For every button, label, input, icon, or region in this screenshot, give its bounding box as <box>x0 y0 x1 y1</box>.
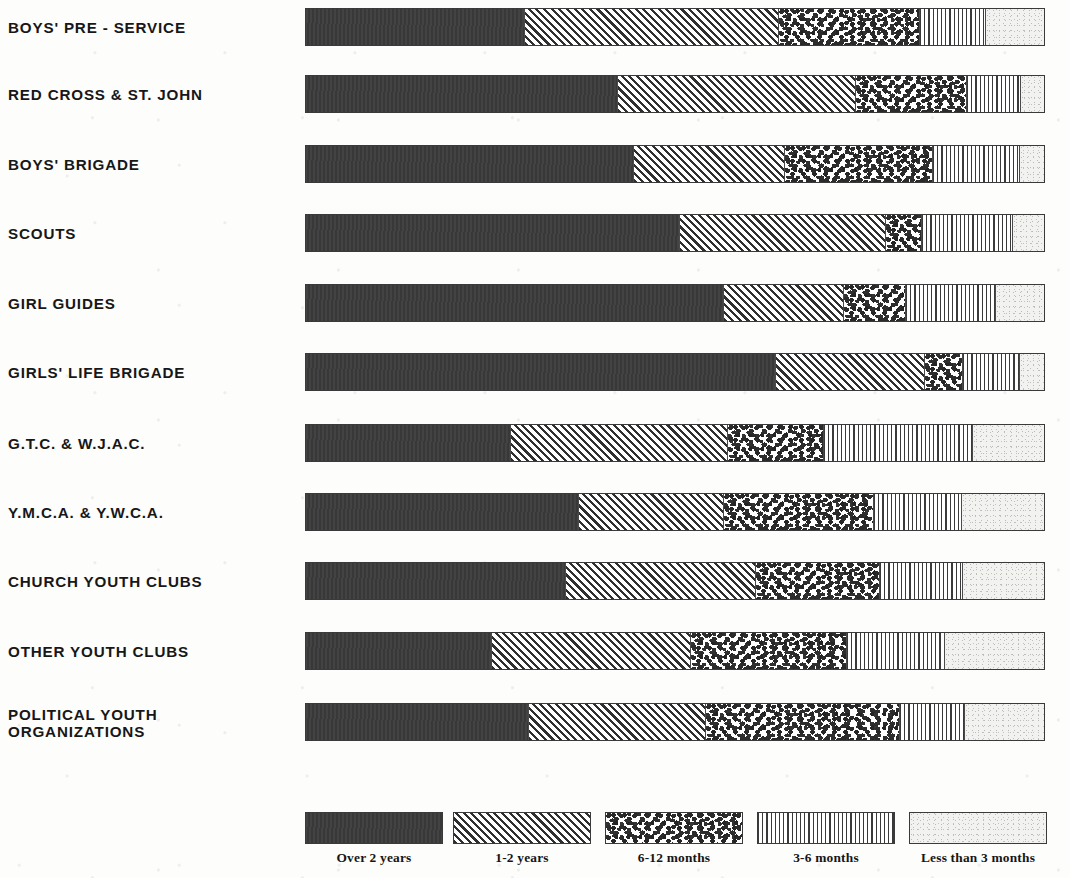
stacked-bar <box>305 562 1045 600</box>
segment-1-2-years <box>528 704 704 740</box>
legend-item: 6-12 months <box>605 812 743 866</box>
segment-1-2-years <box>775 354 925 390</box>
segment-over-2-years <box>306 354 775 390</box>
chart-row: SCOUTS <box>0 211 1070 257</box>
segment-3-6-months <box>823 425 973 461</box>
category-label: CHURCH YOUTH CLUBS <box>8 559 294 605</box>
stacked-bar <box>305 284 1045 322</box>
segment-less-than-3-months <box>995 285 1044 321</box>
segment-1-2-years <box>578 494 723 530</box>
segment-3-6-months <box>846 633 944 669</box>
legend-item: 3-6 months <box>757 812 895 866</box>
category-label: SCOUTS <box>8 211 294 257</box>
chart-row: BOYS' PRE - SERVICE <box>0 5 1070 51</box>
segment-1-2-years <box>617 76 855 112</box>
stacked-bar <box>305 424 1045 462</box>
legend-swatch <box>453 812 591 844</box>
category-label: BOYS' PRE - SERVICE <box>8 5 294 51</box>
segment-6-12-months <box>778 9 920 45</box>
stacked-bar <box>305 353 1045 391</box>
segment-over-2-years <box>306 633 491 669</box>
chart-row: OTHER YOUTH CLUBS <box>0 629 1070 675</box>
segment-3-6-months <box>966 76 1019 112</box>
stacked-bar <box>305 75 1045 113</box>
chart-row: Y.M.C.A. & Y.W.C.A. <box>0 490 1070 536</box>
chart-legend: Over 2 years1-2 years6-12 months3-6 mont… <box>305 812 1050 874</box>
stacked-bar <box>305 214 1045 252</box>
category-label: G.T.C. & W.J.A.C. <box>8 421 294 467</box>
segment-3-6-months <box>899 704 964 740</box>
legend-label: Over 2 years <box>305 850 443 866</box>
segment-1-2-years <box>524 9 777 45</box>
segment-6-12-months <box>727 425 823 461</box>
segment-less-than-3-months <box>1019 146 1044 182</box>
legend-label: 6-12 months <box>605 850 743 866</box>
segment-3-6-months <box>873 494 962 530</box>
segment-6-12-months <box>843 285 905 321</box>
segment-6-12-months <box>885 215 922 251</box>
segment-over-2-years <box>306 76 617 112</box>
category-label: GIRLS' LIFE BRIGADE <box>8 350 294 396</box>
segment-over-2-years <box>306 285 723 321</box>
legend-item: 1-2 years <box>453 812 591 866</box>
segment-over-2-years <box>306 215 679 251</box>
segment-3-6-months <box>905 285 995 321</box>
stacked-bar <box>305 703 1045 741</box>
segment-6-12-months <box>924 354 962 390</box>
segment-less-than-3-months <box>964 704 1044 740</box>
legend-label: Less than 3 months <box>909 850 1047 866</box>
category-label: POLITICAL YOUTH ORGANIZATIONS <box>8 700 294 746</box>
category-label: OTHER YOUTH CLUBS <box>8 629 294 675</box>
segment-over-2-years <box>306 704 528 740</box>
segment-less-than-3-months <box>944 633 1044 669</box>
segment-3-6-months <box>879 563 962 599</box>
segment-1-2-years <box>491 633 690 669</box>
segment-less-than-3-months <box>972 425 1044 461</box>
stacked-bar <box>305 493 1045 531</box>
segment-3-6-months <box>921 215 1012 251</box>
segment-6-12-months <box>723 494 873 530</box>
category-label: GIRL GUIDES <box>8 281 294 327</box>
segment-6-12-months <box>690 633 846 669</box>
legend-swatch <box>305 812 443 844</box>
segment-over-2-years <box>306 146 633 182</box>
segment-less-than-3-months <box>1019 354 1044 390</box>
segment-3-6-months <box>919 9 985 45</box>
stacked-bar <box>305 632 1045 670</box>
segment-1-2-years <box>633 146 784 182</box>
segment-less-than-3-months <box>961 494 1044 530</box>
stacked-bar <box>305 145 1045 183</box>
segment-1-2-years <box>723 285 843 321</box>
category-label: RED CROSS & ST. JOHN <box>8 72 294 118</box>
chart-row: GIRLS' LIFE BRIGADE <box>0 350 1070 396</box>
chart-row: GIRL GUIDES <box>0 281 1070 327</box>
segment-less-than-3-months <box>985 9 1044 45</box>
segment-1-2-years <box>565 563 755 599</box>
segment-1-2-years <box>679 215 885 251</box>
legend-swatch <box>909 812 1047 844</box>
category-label: BOYS' BRIGADE <box>8 142 294 188</box>
segment-over-2-years <box>306 563 565 599</box>
legend-swatch <box>757 812 895 844</box>
chart-row: BOYS' BRIGADE <box>0 142 1070 188</box>
segment-less-than-3-months <box>1020 76 1044 112</box>
legend-swatch <box>605 812 743 844</box>
category-label: Y.M.C.A. & Y.W.C.A. <box>8 490 294 536</box>
legend-item: Less than 3 months <box>909 812 1047 866</box>
segment-over-2-years <box>306 9 524 45</box>
segment-less-than-3-months <box>1012 215 1044 251</box>
segment-6-12-months <box>705 704 900 740</box>
chart-row: G.T.C. & W.J.A.C. <box>0 421 1070 467</box>
segment-6-12-months <box>855 76 966 112</box>
segment-6-12-months <box>784 146 932 182</box>
stacked-bar <box>305 8 1045 46</box>
segment-over-2-years <box>306 425 510 461</box>
segment-6-12-months <box>755 563 880 599</box>
chart-row: POLITICAL YOUTH ORGANIZATIONS <box>0 700 1070 746</box>
legend-label: 1-2 years <box>453 850 591 866</box>
legend-label: 3-6 months <box>757 850 895 866</box>
segment-over-2-years <box>306 494 578 530</box>
chart-row: CHURCH YOUTH CLUBS <box>0 559 1070 605</box>
segment-1-2-years <box>510 425 726 461</box>
segment-3-6-months <box>962 354 1019 390</box>
